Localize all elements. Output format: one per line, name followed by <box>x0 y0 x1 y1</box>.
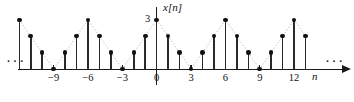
x-axis <box>18 69 344 70</box>
stem-marker <box>120 67 125 72</box>
stem-marker <box>235 34 240 39</box>
stem-line <box>99 36 101 69</box>
stem-marker <box>257 67 262 72</box>
stem-marker <box>189 67 194 72</box>
stem-marker <box>223 18 228 23</box>
stem-marker <box>109 50 114 55</box>
stem-line <box>64 53 66 69</box>
stem-line <box>202 53 204 69</box>
stem-marker <box>269 50 274 55</box>
stem-marker <box>154 18 159 23</box>
y-axis-value-label-3: 3 <box>145 13 150 24</box>
x-axis-tick-label: 0 <box>145 72 169 83</box>
stem-marker <box>51 67 56 72</box>
stem-line <box>225 20 227 69</box>
ellipsis-left: ··· <box>6 56 26 66</box>
stem-marker <box>17 18 22 23</box>
y-axis-label: x[n] <box>163 1 182 13</box>
y-axis-label-text: x[n] <box>163 1 182 13</box>
x-axis-tick-label: −9 <box>42 72 66 83</box>
ellipsis-right: ··· <box>325 56 345 66</box>
stem-line <box>270 53 272 69</box>
stem-marker <box>212 34 217 39</box>
stem-marker <box>143 34 148 39</box>
stem-plot-figure: −9−6−3036912 x[n] 3 n ··· ··· <box>0 0 354 102</box>
stem-line <box>156 20 158 69</box>
stem-marker <box>97 34 102 39</box>
stem-line <box>30 36 32 69</box>
stem-marker <box>28 34 33 39</box>
x-axis-tick-label: 6 <box>213 72 237 83</box>
x-axis-tick-label: −3 <box>110 72 134 83</box>
stem-marker <box>74 34 79 39</box>
stem-marker <box>303 34 308 39</box>
stem-marker <box>63 50 68 55</box>
stem-line <box>248 53 250 69</box>
stem-line <box>213 36 215 69</box>
stem-marker <box>200 50 205 55</box>
stem-line <box>144 36 146 69</box>
stem-line <box>133 53 135 69</box>
stem-line <box>305 36 307 69</box>
x-axis-tick-label: −6 <box>76 72 100 83</box>
x-axis-tick-label: 9 <box>248 72 272 83</box>
x-axis-tick-label: 12 <box>282 72 306 83</box>
stem-marker <box>86 18 91 23</box>
stem-line <box>87 20 89 69</box>
stem-marker <box>246 50 251 55</box>
stem-line <box>293 20 295 69</box>
x-axis-variable-label: n <box>312 70 318 82</box>
x-axis-tick-label: 3 <box>179 72 203 83</box>
stem-marker <box>177 50 182 55</box>
stem-marker <box>292 18 297 23</box>
stem-line <box>282 36 284 69</box>
stem-line <box>110 53 112 69</box>
stem-line <box>76 36 78 69</box>
stem-line <box>236 36 238 69</box>
stem-line <box>41 53 43 69</box>
stem-marker <box>280 34 285 39</box>
stem-line <box>167 36 169 69</box>
stem-marker <box>166 34 171 39</box>
stem-marker <box>132 50 137 55</box>
stem-marker <box>40 50 45 55</box>
stem-line <box>179 53 181 69</box>
